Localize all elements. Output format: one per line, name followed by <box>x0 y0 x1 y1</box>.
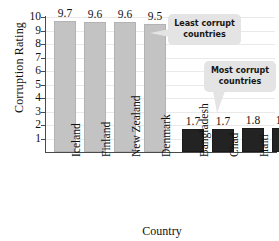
bar-value-label: 9.5 <box>138 10 172 22</box>
y-tick-mark <box>41 112 46 113</box>
y-axis-ticks: 10987654321 <box>17 0 41 241</box>
x-tick-label: New Zealand <box>130 95 142 157</box>
x-tick-label: Bangladesh <box>198 103 210 157</box>
callout-least-line2: countries <box>170 29 239 40</box>
callout-most-line1: Most corrupt <box>206 65 274 76</box>
x-tick-label: Denmark <box>160 114 172 157</box>
y-tick-mark <box>41 139 46 140</box>
x-tick-label: Finland <box>100 122 112 157</box>
y-tick-mark <box>41 85 46 86</box>
x-tick-label: Chad <box>228 133 240 157</box>
y-tick-label: 9 <box>21 25 41 36</box>
callout-most-corrupt: Most corrupt countries <box>204 61 276 92</box>
y-tick-mark <box>41 58 46 59</box>
y-tick-label: 8 <box>21 38 41 49</box>
bar-value-label: 1.8 <box>236 114 270 126</box>
y-tick-label: 6 <box>21 65 41 76</box>
callout-least-tail-icon <box>150 29 170 37</box>
y-tick-mark <box>41 71 46 72</box>
x-axis-title: Country <box>45 224 279 239</box>
callout-least-line1: Least corrupt <box>170 18 239 29</box>
y-tick-mark <box>41 31 46 32</box>
bar-value-label: 9.6 <box>108 8 142 20</box>
x-tick-label: Iceland <box>70 123 82 157</box>
y-tick-label: 10 <box>21 11 41 22</box>
callout-most-tail-icon <box>213 91 225 113</box>
bar-myanmar <box>272 128 279 152</box>
y-tick-label: 5 <box>21 79 41 90</box>
y-tick-mark <box>41 44 46 45</box>
y-tick-label: 2 <box>21 119 41 130</box>
y-tick-label: 7 <box>21 52 41 63</box>
y-tick-label: 1 <box>21 133 41 144</box>
x-tick-label: Haiti <box>258 134 270 157</box>
bar-value-label: 1.8 <box>266 114 279 126</box>
y-tick-label: 4 <box>21 92 41 103</box>
callout-most-line2: countries <box>206 76 274 87</box>
bar-value-label: 1.7 <box>206 115 240 127</box>
callout-least-corrupt: Least corrupt countries <box>168 14 241 45</box>
bar-value-label: 9.7 <box>48 7 82 19</box>
bar-chart: Corruption Rating 10987654321 Least corr… <box>0 0 279 241</box>
y-tick-label: 3 <box>21 106 41 117</box>
bar-value-label: 9.6 <box>78 8 112 20</box>
y-tick-mark <box>41 98 46 99</box>
y-tick-mark <box>41 17 46 18</box>
y-tick-mark <box>41 125 46 126</box>
